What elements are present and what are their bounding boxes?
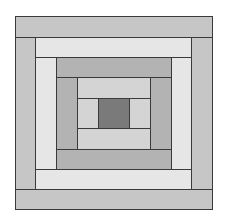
log-cabin-quilt-block: [0, 0, 225, 221]
ring-4-top-strip: [16, 17, 213, 38]
ring-3-left-strip: [36, 58, 57, 170]
ring-3-top-strip: [36, 38, 192, 58]
ring-2-left-strip: [57, 78, 78, 150]
ring-1-bottom-strip: [78, 129, 151, 150]
ring-3-right-strip: [172, 58, 192, 170]
ring-1-top-strip: [78, 78, 151, 99]
center-square: [99, 99, 130, 129]
ring-4-left-strip: [16, 38, 36, 190]
ring-2-bottom-strip: [57, 150, 172, 170]
ring-2-top-strip: [57, 58, 172, 78]
ring-2-right-strip: [151, 78, 172, 150]
ring-1-right-strip: [130, 99, 151, 129]
ring-1-left-strip: [78, 99, 99, 129]
ring-4-right-strip: [192, 38, 213, 190]
ring-4-bottom-strip: [16, 190, 213, 210]
ring-3-bottom-strip: [36, 170, 192, 190]
